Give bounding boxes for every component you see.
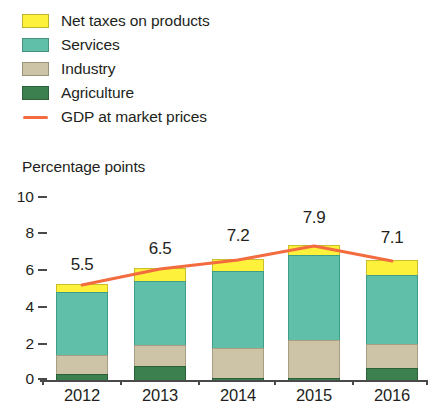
value-label-2014: 7.2 xyxy=(210,226,266,246)
bar-segment-services xyxy=(288,255,340,341)
bar-segment-net-taxes xyxy=(134,268,186,282)
value-label-2016: 7.1 xyxy=(364,228,420,248)
y-tick-label-8: 8 xyxy=(8,225,34,241)
y-tick-label-2: 2 xyxy=(8,336,34,352)
y-tick-label-4: 4 xyxy=(8,299,34,315)
y-tick-label-10: 10 xyxy=(8,189,34,205)
x-axis-line xyxy=(40,380,428,382)
bar-segment-industry xyxy=(134,345,186,367)
y-tick-mark xyxy=(38,196,47,198)
bar-segment-services xyxy=(212,271,264,349)
chart-plot-area: 10 8 6 4 2 0 xyxy=(0,0,431,410)
bar-segment-services xyxy=(134,281,186,346)
x-tick-mark xyxy=(352,380,354,385)
x-tick-label-2016: 2016 xyxy=(364,386,420,405)
y-tick-mark xyxy=(38,232,47,234)
bar-segment-services xyxy=(56,292,108,356)
value-label-2015: 7.9 xyxy=(286,208,342,228)
bar-segment-industry xyxy=(212,348,264,379)
bar-segment-agriculture xyxy=(134,366,186,381)
value-label-2013: 6.5 xyxy=(132,239,188,259)
y-tick-label-0: 0 xyxy=(8,371,34,387)
x-tick-label-2014: 2014 xyxy=(210,386,266,405)
x-tick-mark xyxy=(426,380,428,385)
value-label-2012: 5.5 xyxy=(54,255,110,275)
y-tick-mark xyxy=(38,306,47,308)
bar-segment-industry xyxy=(366,344,418,369)
x-tick-label-2015: 2015 xyxy=(286,386,342,405)
y-tick-mark xyxy=(38,343,47,345)
x-tick-mark xyxy=(42,380,44,385)
x-tick-mark xyxy=(198,380,200,385)
y-tick-label-6: 6 xyxy=(8,262,34,278)
x-tick-label-2012: 2012 xyxy=(54,386,110,405)
x-tick-mark xyxy=(274,380,276,385)
x-tick-label-2013: 2013 xyxy=(132,386,188,405)
bar-segment-services xyxy=(366,275,418,345)
y-tick-mark xyxy=(38,269,47,271)
bar-segment-net-taxes xyxy=(366,260,418,276)
x-tick-mark xyxy=(120,380,122,385)
bar-segment-industry xyxy=(56,355,108,375)
bar-segment-industry xyxy=(288,340,340,379)
